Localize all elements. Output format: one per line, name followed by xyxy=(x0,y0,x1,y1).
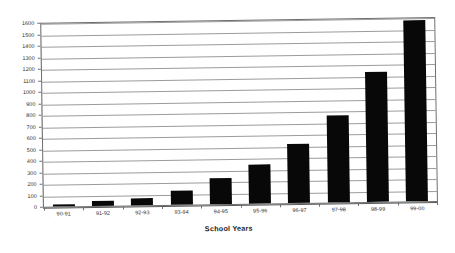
bar-slot xyxy=(198,20,240,205)
bar[interactable] xyxy=(249,164,272,203)
x-axis-title: School Years xyxy=(1,221,455,237)
y-axis-tick-label: 800 xyxy=(0,112,36,119)
x-axis-tick-label: 94-95 xyxy=(201,208,240,216)
y-axis-tick-label: 1000 xyxy=(0,89,35,96)
x-axis-tick-mark xyxy=(319,204,320,207)
x-axis-tick-label: 92-93 xyxy=(123,209,162,217)
y-axis-tick-label: 700 xyxy=(0,123,36,130)
y-axis-tick-label: 1500 xyxy=(0,31,34,38)
y-axis-tick-label: 1100 xyxy=(0,77,35,84)
x-axis-tick-label: 90-91 xyxy=(44,210,83,218)
bar-slot xyxy=(81,22,123,207)
x-axis-tick-mark xyxy=(280,204,281,207)
x-axis-tick-mark xyxy=(83,207,84,210)
bar-slot xyxy=(316,18,358,203)
bar[interactable] xyxy=(288,144,311,203)
x-axis-tick-label: 96-97 xyxy=(280,207,319,215)
x-axis-tick-label: 99-00 xyxy=(398,205,437,213)
x-axis-tick-mark xyxy=(123,207,124,210)
y-axis-tick-label: 0 xyxy=(1,204,37,211)
bar[interactable] xyxy=(170,190,192,205)
bar[interactable] xyxy=(92,201,114,206)
y-axis-tick-label: 400 xyxy=(0,158,36,165)
x-axis-tick-mark xyxy=(44,208,45,211)
x-axis-tick-label: 98-99 xyxy=(358,205,397,213)
x-axis-tick-label: 91-92 xyxy=(83,210,122,218)
scanned-page: 0100200300400500600700800900100011001200… xyxy=(0,0,455,253)
y-axis-tick-label: 1300 xyxy=(0,54,35,61)
x-axis-tick-mark xyxy=(437,202,438,205)
y-axis-tick-label: 1600 xyxy=(0,20,34,27)
y-axis-tick-label: 600 xyxy=(0,135,36,142)
x-axis-tick-mark xyxy=(358,203,359,206)
y-axis-tick-labels: 0100200300400500600700800900100011001200… xyxy=(0,23,41,209)
x-axis-tick-mark xyxy=(162,206,163,209)
bar[interactable] xyxy=(209,178,231,205)
x-axis-tick-mark xyxy=(240,205,241,208)
x-axis-tick-label: 97-98 xyxy=(319,206,358,214)
y-axis-tick-label: 500 xyxy=(0,146,36,153)
bar[interactable] xyxy=(131,198,153,206)
bar-slot xyxy=(356,18,398,203)
bar-slot xyxy=(277,19,319,204)
bar[interactable] xyxy=(404,21,429,202)
bar-slot xyxy=(238,19,280,204)
bar[interactable] xyxy=(326,115,349,203)
bar-slot xyxy=(395,17,437,202)
y-axis-tick-label: 1200 xyxy=(0,66,35,73)
bar-slot xyxy=(41,22,83,207)
bar-slot xyxy=(159,20,201,205)
y-axis-tick-label: 300 xyxy=(0,169,36,176)
x-axis-tick-label: 95-96 xyxy=(241,207,280,215)
y-axis-tick-label: 1400 xyxy=(0,43,35,50)
y-axis-tick-label: 900 xyxy=(0,100,35,107)
bar[interactable] xyxy=(365,72,389,202)
bar[interactable] xyxy=(53,204,75,207)
x-axis-tick-label: 93-94 xyxy=(162,208,201,216)
y-axis-tick-label: 200 xyxy=(1,181,37,188)
bar-series xyxy=(41,17,437,207)
x-axis-tick-mark xyxy=(398,202,399,205)
y-axis-tick-label: 100 xyxy=(1,192,37,199)
bar-chart-figure: 0100200300400500600700800900100011001200… xyxy=(0,0,455,253)
bar-slot xyxy=(120,21,162,206)
x-axis-tick-mark xyxy=(201,205,202,208)
